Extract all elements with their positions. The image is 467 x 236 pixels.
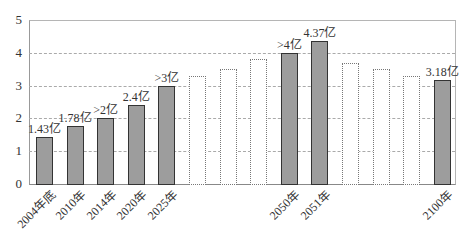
projected-bar [342, 63, 359, 185]
gridline [29, 151, 455, 152]
x-tick-label: 2050年 [268, 188, 302, 222]
value-label: 1.43亿 [28, 123, 61, 135]
projected-bar [220, 69, 237, 185]
bar [36, 137, 53, 185]
bar [158, 86, 175, 185]
projected-bar [373, 69, 390, 185]
value-label: 4.37亿 [303, 27, 336, 39]
gridline [29, 53, 455, 54]
value-label: 1.78亿 [59, 112, 92, 124]
x-tick-label: 2010年 [54, 188, 88, 222]
bar [128, 105, 145, 185]
value-label: 3.18亿 [426, 66, 459, 78]
x-tick-label: 2014年 [84, 188, 118, 222]
y-tick-label: 1 [2, 144, 22, 157]
value-label: 2.4亿 [123, 91, 150, 103]
y-tick-label: 4 [2, 46, 22, 59]
gridline [29, 118, 455, 119]
projected-bar [250, 59, 267, 185]
gridline [29, 86, 455, 87]
x-tick-label: 2100年 [421, 188, 455, 222]
y-tick-label: 2 [2, 111, 22, 124]
bar [281, 53, 298, 185]
value-label: >4亿 [277, 39, 302, 51]
bar [67, 126, 84, 185]
x-tick-label: 2051年 [298, 188, 332, 222]
value-label: >2亿 [93, 104, 118, 116]
bar [311, 41, 328, 185]
bar [97, 118, 114, 185]
bar [434, 80, 451, 185]
x-tick-label: 2025年 [145, 188, 179, 222]
bar-chart: 012345 1.43亿1.78亿>2亿2.4亿>3亿>4亿4.37亿3.18亿… [0, 0, 467, 236]
y-tick-label: 5 [2, 13, 22, 26]
y-tick-label: 3 [2, 79, 22, 92]
value-label: >3亿 [155, 72, 180, 84]
x-tick-label: 2004年底 [15, 188, 57, 230]
projected-bar [403, 76, 420, 185]
x-tick-label: 2020年 [115, 188, 149, 222]
y-tick-label: 0 [2, 177, 22, 190]
projected-bar [189, 76, 206, 185]
